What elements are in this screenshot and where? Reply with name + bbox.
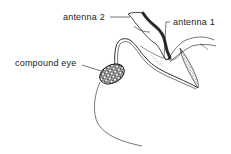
insect-head-diagram: antenna 2 antenna 1 compound eye	[0, 0, 231, 154]
antenna-2-shape	[128, 12, 170, 60]
label-compound-eye: compound eye	[15, 58, 76, 68]
antenna-1-shape	[168, 37, 216, 62]
label-antenna-2: antenna 2	[63, 12, 105, 22]
compound-eye-shape	[96, 60, 127, 88]
compound-eye-leader	[82, 65, 101, 71]
label-antenna-1: antenna 1	[173, 17, 215, 27]
head-capsule-shape	[115, 39, 199, 89]
lower-head-contour	[94, 82, 142, 146]
